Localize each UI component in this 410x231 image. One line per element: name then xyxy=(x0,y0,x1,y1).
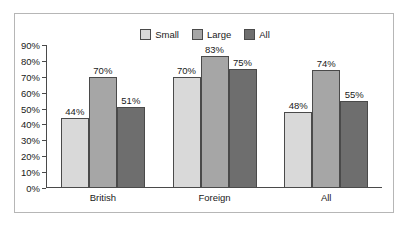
x-axis-category-label: Foreign xyxy=(198,192,230,203)
bar[interactable]: 44% xyxy=(61,118,89,188)
bar-value-label: 83% xyxy=(205,44,224,55)
bar-value-label: 70% xyxy=(93,65,112,76)
y-axis-tick-label: 50% xyxy=(21,103,40,114)
y-axis-tick-mark xyxy=(42,172,46,173)
y-axis-tick-label: 30% xyxy=(21,135,40,146)
bar[interactable]: 75% xyxy=(229,69,257,188)
bar-group: 70%83%75% xyxy=(173,45,257,188)
y-axis-tick-mark xyxy=(42,188,46,189)
legend-entry[interactable]: Large xyxy=(192,29,231,40)
y-axis-tick-mark xyxy=(42,124,46,125)
x-axis-category-labels: BritishForeignAll xyxy=(46,192,382,206)
bar-value-label: 55% xyxy=(345,89,364,100)
y-axis-tick-label: 80% xyxy=(21,55,40,66)
bar-value-label: 70% xyxy=(177,65,196,76)
y-axis-tick-mark xyxy=(42,61,46,62)
legend-entry[interactable]: Small xyxy=(140,29,179,40)
bar[interactable]: 51% xyxy=(117,107,145,188)
y-axis-tick-label: 70% xyxy=(21,71,40,82)
y-axis-tick-label: 10% xyxy=(21,167,40,178)
bar[interactable]: 55% xyxy=(340,101,368,188)
plot-area: 0%10%20%30%40%50%60%70%80%90% 44%70%51%7… xyxy=(46,45,382,188)
bar-series-container: 44%70%51%70%83%75%48%74%55% xyxy=(47,45,382,188)
bar-value-label: 51% xyxy=(121,95,140,106)
bar[interactable]: 70% xyxy=(89,77,117,188)
bar-group: 48%74%55% xyxy=(284,45,368,188)
bar[interactable]: 74% xyxy=(312,70,340,188)
y-axis-tick-mark xyxy=(42,45,46,46)
y-axis-tick-label: 40% xyxy=(21,119,40,130)
legend-swatch-icon xyxy=(140,29,151,40)
chart-legend: SmallLargeAll xyxy=(15,27,395,41)
y-axis-tick-mark xyxy=(42,93,46,94)
legend-swatch-icon xyxy=(192,29,203,40)
y-axis-tick-label: 20% xyxy=(21,151,40,162)
bar[interactable]: 70% xyxy=(173,77,201,188)
y-axis-tick-mark xyxy=(42,109,46,110)
x-axis-category-label: British xyxy=(90,192,116,203)
y-axis-tick-label: 90% xyxy=(21,40,40,51)
legend-label: Large xyxy=(207,29,231,40)
y-axis-tick-mark xyxy=(42,77,46,78)
y-axis-tick-label: 60% xyxy=(21,87,40,98)
bar-value-label: 48% xyxy=(289,100,308,111)
bar-value-label: 74% xyxy=(317,58,336,69)
chart-frame: SmallLargeAll 0%10%20%30%40%50%60%70%80%… xyxy=(14,13,394,213)
legend-entry[interactable]: All xyxy=(244,29,270,40)
y-axis-tick-mark xyxy=(42,156,46,157)
legend-swatch-icon xyxy=(244,29,255,40)
bar-value-label: 44% xyxy=(65,106,84,117)
bar[interactable]: 83% xyxy=(201,56,229,188)
x-axis-category-label: All xyxy=(321,192,332,203)
bar[interactable]: 48% xyxy=(284,112,312,188)
bar-group: 44%70%51% xyxy=(61,45,145,188)
bar-value-label: 75% xyxy=(233,57,252,68)
y-axis-tick-mark xyxy=(42,140,46,141)
legend-label: Small xyxy=(155,29,179,40)
chart-figure: SmallLargeAll 0%10%20%30%40%50%60%70%80%… xyxy=(0,0,410,231)
legend-label: All xyxy=(259,29,270,40)
y-axis-tick-label: 0% xyxy=(26,183,40,194)
